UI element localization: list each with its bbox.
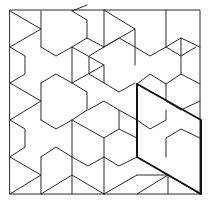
tiling-diagram [0,0,214,204]
tiling-lines [10,5,200,194]
highlight-parallelogram [137,84,201,194]
tiling-svg [0,0,214,204]
